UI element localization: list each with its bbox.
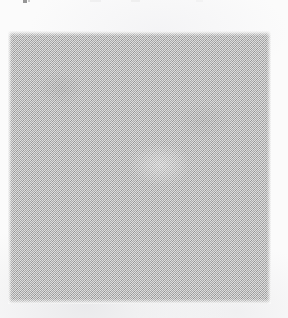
figure-caption <box>8 306 271 316</box>
scan-speck <box>196 0 203 2</box>
scan-speck <box>131 0 140 2</box>
halftone-edge-fade <box>8 31 271 304</box>
top-edge-scan-artifacts <box>0 0 288 6</box>
scan-speck <box>28 0 30 2</box>
halftone-mottle <box>8 31 271 304</box>
scan-speck <box>90 0 101 2</box>
scanned-page <box>0 0 288 318</box>
gray-halftone-block <box>8 31 271 304</box>
scan-speck <box>23 0 27 3</box>
